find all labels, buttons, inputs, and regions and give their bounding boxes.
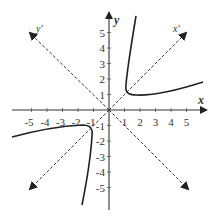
x-tick-label: 5 <box>184 116 190 128</box>
hyperbola-branch-lower-left <box>12 125 92 205</box>
x-axis-label: x <box>197 93 204 107</box>
y-prime-label: y' <box>35 23 43 34</box>
x-tick-label: 4 <box>168 116 174 128</box>
y-tick-label: 3 <box>100 58 106 70</box>
x-prime-axis <box>109 33 186 110</box>
y-tick-label: 4 <box>100 42 106 54</box>
y-prime-axis-negative <box>109 110 188 189</box>
x-tick-label: -4 <box>40 116 50 128</box>
y-tick-label: -4 <box>96 166 106 178</box>
y-prime-axis <box>30 33 109 110</box>
y-tick-label: -2 <box>96 135 105 147</box>
x-tick-label: 2 <box>137 116 143 128</box>
y-axis-label: y <box>112 13 120 27</box>
x-tick-labels: -5 -4 -3 -2 -1 1 2 3 4 5 <box>24 116 189 128</box>
y-tick-label: 1 <box>100 89 106 101</box>
hyperbola-branch-upper-right <box>126 16 203 95</box>
y-tick-label: 2 <box>100 73 106 85</box>
y-tick-label: -5 <box>96 182 106 194</box>
y-tick-label: 5 <box>100 27 106 39</box>
hyperbola-plot: -5 -4 -3 -2 -1 1 2 3 4 5 5 4 3 2 1 -1 -2… <box>0 0 217 217</box>
y-tick-label: -3 <box>96 151 106 163</box>
x-tick-label: -5 <box>24 116 34 128</box>
x-tick-label: 3 <box>153 116 159 128</box>
x-prime-label: x' <box>172 23 180 34</box>
